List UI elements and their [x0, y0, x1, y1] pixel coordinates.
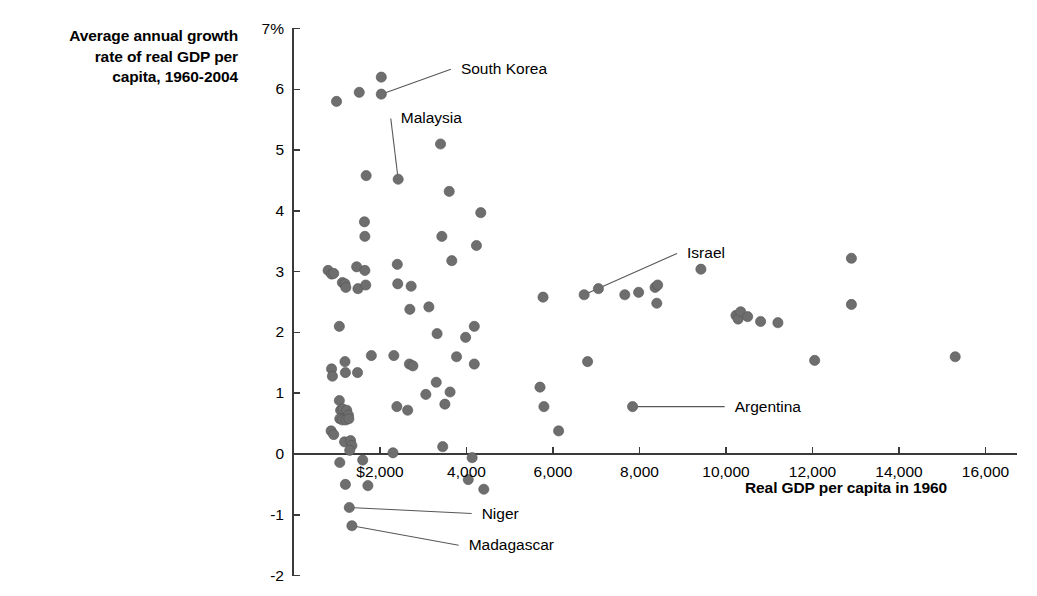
data-point: [334, 321, 344, 331]
data-point: [329, 268, 339, 278]
y-tick-label: 5: [238, 141, 284, 159]
data-point: [366, 350, 376, 360]
data-point: [376, 89, 386, 99]
data-point: [476, 208, 486, 218]
x-tick-label: 12,000: [789, 463, 836, 481]
data-point: [554, 426, 564, 436]
x-tick-label: $2,000: [356, 463, 403, 481]
data-point: [327, 371, 337, 381]
data-point: [405, 304, 415, 314]
annotation-label-israel: Israel: [687, 244, 725, 262]
data-point: [354, 87, 364, 97]
annotation-label-malaysia: Malaysia: [401, 109, 462, 127]
data-point: [461, 332, 471, 342]
data-point: [435, 139, 445, 149]
data-point: [359, 217, 369, 227]
data-point: [593, 284, 603, 294]
data-point: [329, 429, 339, 439]
data-point: [440, 399, 450, 409]
data-point: [451, 352, 461, 362]
data-point: [444, 186, 454, 196]
data-point: [743, 312, 753, 322]
data-point: [627, 401, 637, 411]
y-tick-label: 4: [238, 202, 284, 220]
y-tick-label: -2: [238, 567, 284, 585]
data-point: [756, 316, 766, 326]
data-point: [393, 174, 403, 184]
data-point: [345, 445, 355, 455]
data-point: [335, 457, 345, 467]
y-tick-label: 7%: [238, 20, 284, 38]
data-point: [437, 231, 447, 241]
data-point: [347, 521, 357, 531]
data-point: [583, 357, 593, 367]
data-point: [360, 231, 370, 241]
y-tick-label: 1: [238, 384, 284, 402]
y-tick-label: 0: [238, 445, 284, 463]
data-point: [424, 302, 434, 312]
data-point: [406, 281, 416, 291]
leader-line: [391, 118, 398, 179]
y-tick-label: 3: [238, 263, 284, 281]
data-point: [579, 290, 589, 300]
data-point: [392, 401, 402, 411]
scatter-plot-figure: Average annual growth rate of real GDP p…: [0, 0, 1037, 596]
data-point: [479, 484, 489, 494]
data-point: [773, 318, 783, 328]
data-point: [352, 367, 362, 377]
data-point: [539, 401, 549, 411]
data-point: [432, 329, 442, 339]
data-point: [696, 264, 706, 274]
x-tick-label: 4,000: [447, 463, 486, 481]
data-point: [360, 265, 370, 275]
data-point: [471, 240, 481, 250]
x-tick-label: 10,000: [702, 463, 749, 481]
data-point: [389, 350, 399, 360]
data-point: [408, 361, 418, 371]
data-point: [447, 256, 457, 266]
annotation-label-madagascar: Madagascar: [469, 536, 554, 554]
annotation-label-niger: Niger: [482, 505, 519, 523]
data-point: [340, 367, 350, 377]
data-point: [393, 279, 403, 289]
data-point: [431, 377, 441, 387]
x-tick-label: 14,000: [875, 463, 922, 481]
data-point: [469, 321, 479, 331]
data-point: [846, 299, 856, 309]
data-point: [438, 442, 448, 452]
x-tick-label: 6,000: [534, 463, 573, 481]
data-point: [469, 359, 479, 369]
data-point: [340, 479, 350, 489]
data-point: [376, 72, 386, 82]
data-point: [421, 389, 431, 399]
data-point: [634, 287, 644, 297]
data-point: [653, 280, 663, 290]
annotation-label-argentina: Argentina: [735, 398, 801, 416]
data-point: [846, 253, 856, 263]
data-point: [810, 355, 820, 365]
data-point: [344, 414, 354, 424]
data-point: [344, 502, 354, 512]
data-point: [652, 298, 662, 308]
x-tick-label: 8,000: [620, 463, 659, 481]
y-tick-label: 6: [238, 80, 284, 98]
y-tick-label: 2: [238, 323, 284, 341]
data-point: [361, 171, 371, 181]
data-point: [950, 352, 960, 362]
data-point: [535, 382, 545, 392]
data-points: [323, 72, 960, 531]
annotation-label-south-korea: South Korea: [461, 60, 547, 78]
leader-line: [349, 507, 471, 513]
data-point: [403, 405, 413, 415]
leader-line: [381, 69, 451, 94]
data-point: [620, 290, 630, 300]
x-tick-label: 16,000: [962, 463, 1009, 481]
data-point: [341, 282, 351, 292]
data-point: [392, 259, 402, 269]
y-axis-line: [293, 29, 300, 576]
y-tick-label: -1: [238, 506, 284, 524]
data-point: [388, 448, 398, 458]
leader-line: [352, 526, 459, 545]
data-point: [538, 292, 548, 302]
data-point: [331, 96, 341, 106]
